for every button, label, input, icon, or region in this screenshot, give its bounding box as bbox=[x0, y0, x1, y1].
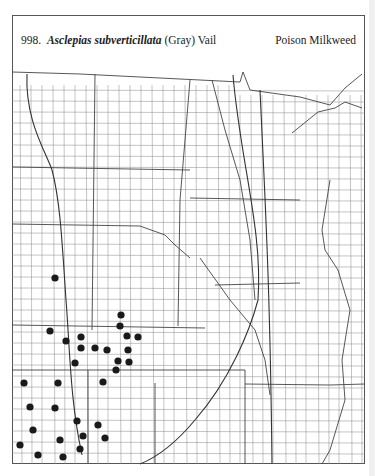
occurrence-dot bbox=[134, 333, 141, 340]
occurrence-dot bbox=[117, 311, 124, 318]
occurrence-dot bbox=[91, 344, 98, 351]
occurrence-dot bbox=[59, 453, 66, 460]
occurrence-dot bbox=[101, 434, 108, 441]
occurrence-dot bbox=[116, 322, 123, 329]
occurrence-dots bbox=[16, 274, 141, 460]
occurrence-dot bbox=[51, 404, 58, 411]
occurrence-dot bbox=[94, 421, 101, 428]
occurrence-dot bbox=[51, 274, 58, 281]
occurrence-dot bbox=[26, 403, 33, 410]
occurrence-dot bbox=[54, 379, 61, 386]
occurrence-dot bbox=[29, 426, 36, 433]
meridian-lines bbox=[27, 74, 272, 464]
occurrence-dot bbox=[62, 337, 69, 344]
occurrence-dot bbox=[46, 327, 53, 334]
occurrence-dot bbox=[123, 332, 130, 339]
occurrence-dot bbox=[99, 378, 106, 385]
occurrence-dot bbox=[34, 451, 41, 458]
occurrence-dot bbox=[71, 359, 78, 366]
occurrence-dot bbox=[77, 333, 84, 340]
occurrence-dot bbox=[76, 445, 83, 452]
occurrence-dot bbox=[125, 358, 132, 365]
occurrence-dot bbox=[79, 432, 86, 439]
occurrence-dot bbox=[56, 436, 63, 443]
page-edge bbox=[369, 0, 375, 476]
occurrence-dot bbox=[73, 417, 80, 424]
occurrence-dot bbox=[20, 379, 27, 386]
occurrence-dot bbox=[124, 346, 131, 353]
occurrence-dot bbox=[114, 357, 121, 364]
occurrence-dot bbox=[103, 346, 110, 353]
county-map bbox=[0, 0, 375, 476]
occurrence-dot bbox=[112, 366, 119, 373]
occurrence-dot bbox=[77, 344, 84, 351]
occurrence-dot bbox=[16, 441, 23, 448]
